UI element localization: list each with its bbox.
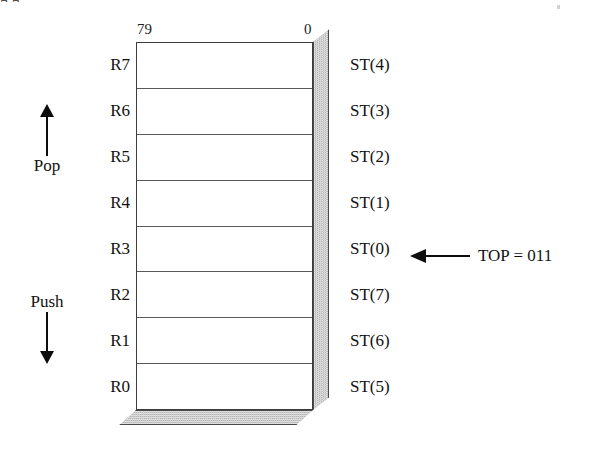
top-pointer-label: TOP = 011 [478, 246, 552, 266]
stack-bottom-face-3d [119, 410, 313, 425]
stack-diagram-canvas: g g 79 0 R7R6R5R4R3R2R1R0 ST(4)ST(3)ST(2… [0, 0, 592, 461]
register-cell [137, 227, 312, 273]
register-name-r6: R6 [92, 88, 132, 134]
stack-alias-1: ST(3) [350, 88, 420, 134]
push-label: Push [2, 292, 92, 312]
stack-alias-0: ST(4) [350, 42, 420, 88]
register-name-r2: R2 [92, 272, 132, 318]
stack-alias-3: ST(1) [350, 180, 420, 226]
stack-side-face-3d [313, 29, 329, 410]
bit-label-msb: 79 [137, 22, 152, 37]
register-name-r0: R0 [92, 364, 132, 410]
register-name-r3: R3 [92, 226, 132, 272]
pop-label: Pop [2, 156, 92, 176]
register-name-r4: R4 [92, 180, 132, 226]
register-cell [137, 89, 312, 135]
register-cell [137, 318, 312, 364]
register-name-r1: R1 [92, 318, 132, 364]
stack-alias-7: ST(5) [350, 364, 420, 410]
arrow-down-icon [37, 312, 57, 364]
arrow-up-icon [37, 104, 57, 156]
register-name-r5: R5 [92, 134, 132, 180]
stack-alias-5: ST(7) [350, 272, 420, 318]
arrow-left-icon [410, 248, 470, 264]
scan-artifact-speck [557, 5, 560, 9]
cropped-caption-remnant: g g [0, 0, 592, 2]
register-cell [137, 43, 312, 89]
register-cell [137, 364, 312, 409]
push-direction-group: Push [2, 292, 92, 364]
register-cell [137, 181, 312, 227]
register-cell [137, 272, 312, 318]
stack-alias-2: ST(2) [350, 134, 420, 180]
pop-direction-group: Pop [2, 104, 92, 176]
bit-label-lsb: 0 [304, 22, 312, 37]
register-name-column: R7R6R5R4R3R2R1R0 [92, 42, 132, 410]
stack-alias-column: ST(4)ST(3)ST(2)ST(1)ST(0)ST(7)ST(6)ST(5) [350, 42, 420, 410]
register-cell [137, 135, 312, 181]
top-pointer-annotation: TOP = 011 [410, 243, 552, 269]
stack-front-face [136, 42, 313, 410]
stack-alias-6: ST(6) [350, 318, 420, 364]
register-stack-box [136, 42, 326, 430]
register-name-r7: R7 [92, 42, 132, 88]
